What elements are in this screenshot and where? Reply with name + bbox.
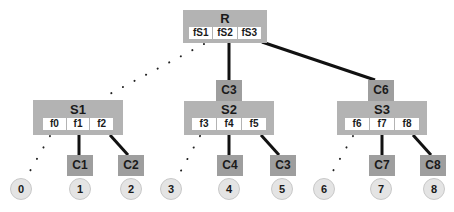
leaf-node: 1: [69, 178, 91, 200]
subtree-field: f7: [370, 118, 395, 130]
dotted-edge-s3-leaf6: [329, 136, 353, 178]
subtree-field: f5: [242, 118, 266, 130]
dotted-edge-root-s1: [106, 44, 204, 96]
subtree-label: S2: [184, 103, 274, 117]
child-node: C7: [369, 155, 395, 176]
root-node: R fS1 fS2 fS3: [183, 10, 267, 43]
child-node: C4: [217, 155, 243, 176]
dotted-edge-s1-leaf0: [26, 136, 50, 178]
dotted-edge-s2-leaf3: [177, 136, 200, 178]
subtree-field: f2: [90, 118, 113, 130]
child-node: C2: [118, 155, 144, 176]
edge-s1-c2: [110, 135, 128, 155]
subtree-node-s3: S3 f6 f7 f8: [337, 101, 427, 135]
root-label: R: [183, 12, 267, 26]
root-field: fS3: [238, 27, 261, 39]
subtree-field: f0: [43, 118, 67, 130]
subtree-label: S3: [337, 103, 427, 117]
subtree-fields: f0 f1 f2: [43, 118, 113, 130]
subtree-node-s1: S1 f0 f1 f2: [33, 100, 123, 135]
child-node: C3: [270, 155, 296, 176]
leaf-node: 0: [10, 178, 32, 200]
subtree-field: f3: [192, 118, 217, 130]
child-node: C8: [420, 155, 446, 176]
subtree-label: S1: [33, 103, 123, 117]
root-field: fS2: [213, 27, 237, 39]
leaf-node: 3: [160, 178, 182, 200]
connector-node-c6: C6: [368, 80, 394, 101]
subtree-field: f8: [395, 118, 419, 130]
subtree-field: f4: [217, 118, 242, 130]
root-field: fS1: [189, 27, 213, 39]
root-fields: fS1 fS2 fS3: [189, 27, 261, 39]
connector-node-c3: C3: [216, 80, 242, 101]
leaf-node: 2: [120, 178, 142, 200]
subtree-node-s2: S2 f3 f4 f5: [184, 101, 274, 135]
leaf-node: 8: [423, 178, 445, 200]
leaf-node: 6: [313, 178, 335, 200]
subtree-field: f6: [345, 118, 370, 130]
edge-s2-c3: [261, 135, 279, 155]
edge-root-c6: [262, 42, 375, 80]
leaf-node: 4: [218, 178, 240, 200]
subtree-fields: f6 f7 f8: [345, 118, 419, 130]
edge-s3-c8: [413, 135, 431, 155]
leaf-node: 7: [370, 178, 392, 200]
leaf-node: 5: [271, 178, 293, 200]
subtree-fields: f3 f4 f5: [192, 118, 266, 130]
subtree-field: f1: [67, 118, 91, 130]
child-node: C1: [67, 155, 93, 176]
